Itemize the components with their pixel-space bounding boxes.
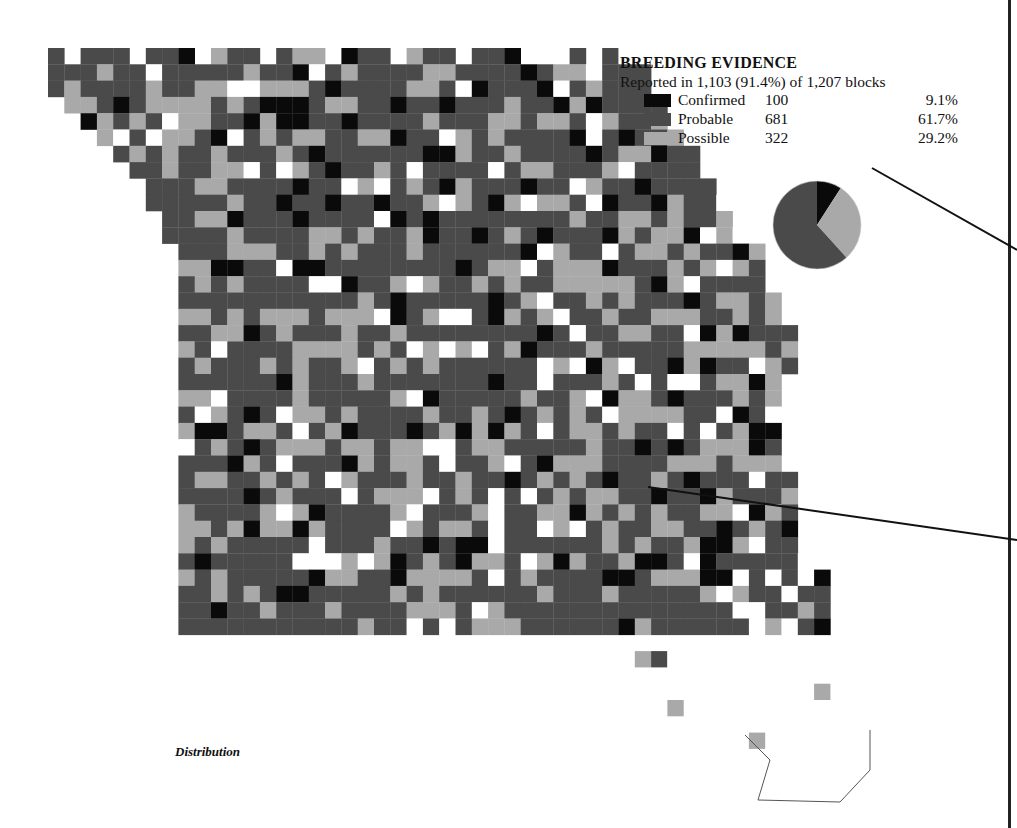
legend-percent: 61.7% <box>918 110 958 128</box>
legend-count: 322 <box>765 129 788 147</box>
legend-percent: 29.2% <box>918 129 958 147</box>
legend-title: BREEDING EVIDENCE <box>620 54 970 72</box>
possible-swatch-icon <box>644 132 671 145</box>
page-border-line <box>1008 0 1011 828</box>
breeding-evidence-legend: BREEDING EVIDENCE Reported in 1,103 (91.… <box>620 54 970 148</box>
legend-row-confirmed: Confirmed 100 9.1% <box>620 91 970 110</box>
legend-row-possible: Possible 322 29.2% <box>620 129 970 148</box>
legend-percent: 9.1% <box>926 91 958 109</box>
legend-label: Probable <box>678 110 733 128</box>
legend-label: Confirmed <box>678 91 745 109</box>
legend-label: Possible <box>678 129 730 147</box>
legend-count: 100 <box>765 91 788 109</box>
legend-count: 681 <box>765 110 788 128</box>
map-caption: Distribution <box>175 744 240 760</box>
evidence-pie-chart <box>772 180 862 270</box>
probable-swatch-icon <box>644 113 671 126</box>
legend-subtitle: Reported in 1,103 (91.4%) of 1,207 block… <box>620 73 970 91</box>
confirmed-swatch-icon <box>644 94 671 107</box>
legend-row-probable: Probable 681 61.7% <box>620 110 970 129</box>
